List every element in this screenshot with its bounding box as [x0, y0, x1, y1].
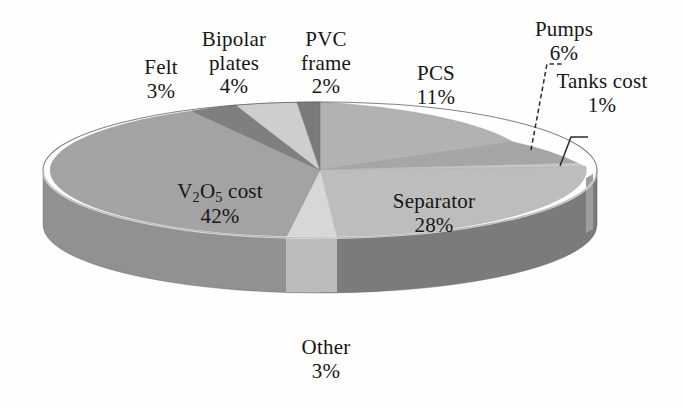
slice-label-bipolar-plates-percent: 4% — [186, 75, 282, 99]
slice-label-v2o5-cost: V2O5 cost 42% — [140, 180, 300, 228]
v2o5-suffix: cost — [223, 179, 263, 203]
slice-label-tanks-cost-name: Tanks cost — [536, 70, 668, 94]
slice-label-pcs: PCS 11% — [400, 62, 472, 109]
pie-chart-figure: Felt 3% Bipolar plates 4% PVC frame 2% P… — [0, 0, 684, 408]
slice-label-bipolar-plates-line2: plates — [186, 52, 282, 76]
slice-label-pvc-frame-percent: 2% — [286, 75, 366, 99]
slice-label-bipolar-plates-line1: Bipolar — [186, 28, 282, 52]
v2o5-sub2: 5 — [215, 189, 222, 205]
slice-label-other-name: Other — [270, 336, 382, 360]
v2o5-sub1: 2 — [193, 189, 200, 205]
slice-label-tanks-cost-percent: 1% — [536, 94, 668, 118]
side-wall-other — [286, 237, 337, 292]
slice-label-other-percent: 3% — [270, 360, 382, 384]
slice-label-tanks-cost: Tanks cost 1% — [536, 70, 668, 117]
slice-label-separator-percent: 28% — [366, 214, 502, 238]
pie-top-surface — [50, 102, 586, 238]
slice-label-other: Other 3% — [270, 336, 382, 383]
slice-label-bipolar-plates: Bipolar plates 4% — [186, 28, 282, 99]
slice-label-pvc-frame-line1: PVC — [286, 28, 366, 52]
slice-label-pumps-name: Pumps — [516, 18, 612, 42]
slice-label-pcs-percent: 11% — [400, 86, 472, 110]
slice-label-separator-name: Separator — [366, 190, 502, 214]
slice-label-pcs-name: PCS — [400, 62, 472, 86]
v2o5-mid: O — [200, 179, 215, 203]
slice-label-pvc-frame-line2: frame — [286, 52, 366, 76]
slice-label-v2o5-cost-percent: 42% — [140, 205, 300, 229]
slice-label-pumps-percent: 6% — [516, 42, 612, 66]
slice-label-pvc-frame: PVC frame 2% — [286, 28, 366, 99]
slice-label-pumps: Pumps 6% — [516, 18, 612, 65]
v2o5-prefix: V — [177, 179, 192, 203]
slice-label-separator: Separator 28% — [366, 190, 502, 237]
slice-label-v2o5-cost-name: V2O5 cost — [140, 180, 300, 205]
